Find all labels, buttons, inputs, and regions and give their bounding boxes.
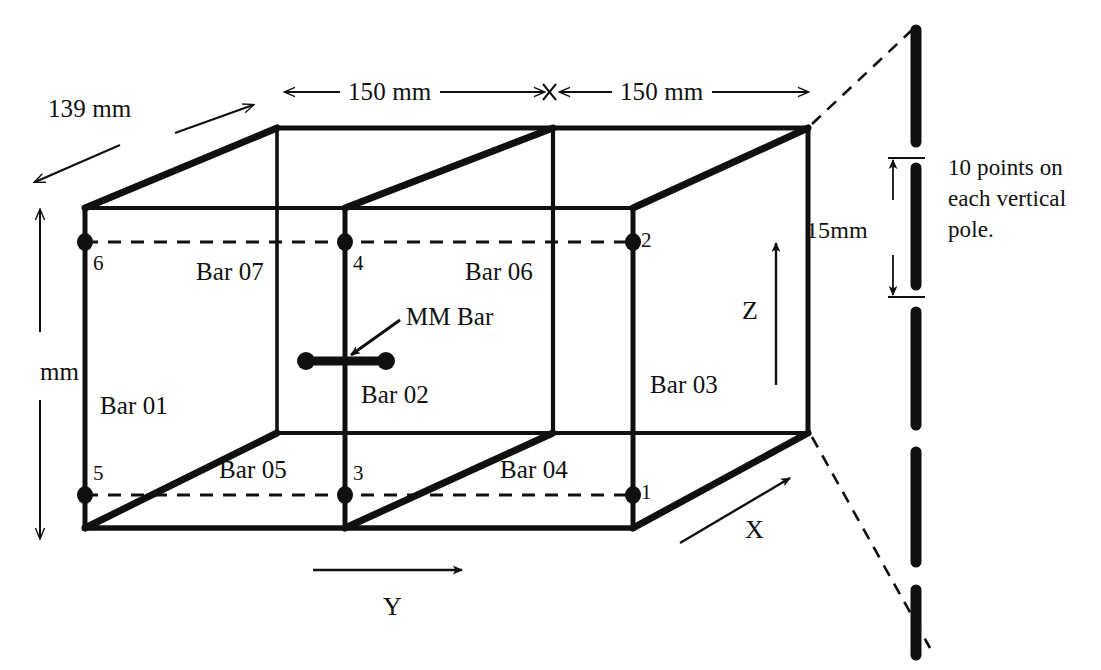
node-dot-1 [625, 486, 641, 504]
node-label-3: 3 [353, 462, 364, 486]
x-axis-arrow [680, 478, 790, 543]
width-right-dimension-label: 150 mm [620, 78, 703, 106]
node-dot-3 [337, 486, 353, 504]
node-label-5: 5 [93, 462, 104, 486]
height-dimension-label: mm [40, 358, 79, 386]
width-left-dimension-label: 150 mm [348, 78, 431, 106]
callout-leader-top [812, 30, 912, 124]
bar-label-04: Bar 04 [500, 456, 568, 484]
bar-label-06: Bar 06 [465, 258, 533, 286]
node-dot-6 [77, 233, 93, 251]
pole-note-line-2: each vertical [948, 186, 1066, 212]
node-label-2: 2 [641, 229, 652, 253]
node-dot-4 [337, 233, 353, 251]
diagram-canvas: 139 mm 150 mm 150 mm mm 15mm Bar 01 Bar … [0, 0, 1101, 670]
axis-label-x: X [745, 515, 764, 544]
depth-arrow-lower [35, 145, 120, 182]
pole-spacing-label: 15mm [806, 217, 868, 244]
node-label-1: 1 [641, 481, 652, 505]
depth-arrow-upper [175, 105, 253, 133]
axis-label-y: Y [383, 592, 402, 621]
depth-dimension-label: 139 mm [48, 95, 131, 123]
node-dot-5 [77, 486, 93, 504]
node-dot-2 [625, 233, 641, 251]
bar-label-07: Bar 07 [196, 258, 264, 286]
mm-bar-label: MM Bar [406, 303, 493, 331]
mm-bar-leader-arrow [351, 320, 400, 355]
node-label-4: 4 [353, 252, 364, 276]
bar-label-05: Bar 05 [219, 456, 287, 484]
bar-label-02: Bar 02 [361, 381, 429, 409]
diagram-vector-layer [0, 0, 1101, 670]
pole-note-line-3: pole. [948, 217, 994, 243]
axis-label-z: Z [742, 296, 758, 325]
bar-label-03: Bar 03 [650, 371, 718, 399]
bar-label-01: Bar 01 [100, 392, 168, 420]
frame-back-face [277, 128, 808, 433]
node-label-6: 6 [93, 252, 104, 276]
pole-note-line-1: 10 points on [948, 155, 1063, 181]
